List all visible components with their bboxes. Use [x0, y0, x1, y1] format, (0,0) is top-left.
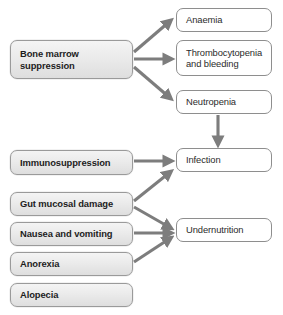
- edge-bone-marrow-to-neutropenia: [134, 67, 169, 97]
- node-anorexia[interactable]: Anorexia: [10, 252, 133, 276]
- node-label: Undernutrition: [177, 224, 271, 235]
- node-label: Bone marrow suppression: [11, 48, 132, 71]
- edge-gut-mucosal-damage-to-undernutrition: [134, 207, 169, 227]
- node-label: Gut mucosal damage: [11, 198, 132, 209]
- node-gut-mucosal-damage[interactable]: Gut mucosal damage: [10, 192, 133, 216]
- node-anaemia[interactable]: Anaemia: [176, 8, 272, 32]
- node-label: Infection: [177, 154, 271, 165]
- edge-bone-marrow-to-anaemia: [134, 22, 169, 52]
- node-label: Alopecia: [11, 289, 132, 300]
- node-neutropenia[interactable]: Neutropenia: [176, 90, 272, 114]
- flowchart-canvas: Bone marrow suppression Anaemia Thromboc…: [0, 0, 283, 315]
- edge-anorexia-to-undernutrition: [134, 239, 169, 262]
- node-immunosuppression[interactable]: Immunosuppression: [10, 150, 133, 175]
- node-alopecia[interactable]: Alopecia: [10, 283, 133, 307]
- node-label: Neutropenia: [177, 96, 271, 107]
- node-label: Nausea and vomiting: [11, 228, 132, 239]
- node-label: Immunosuppression: [11, 157, 132, 168]
- node-label: Anorexia: [11, 258, 132, 269]
- node-label: Anaemia: [177, 14, 271, 25]
- node-undernutrition[interactable]: Undernutrition: [176, 218, 272, 242]
- node-label: Thrombocytopenia and bleeding: [177, 47, 271, 70]
- edge-gut-mucosal-damage-to-infection: [134, 173, 169, 201]
- node-nausea-and-vomiting[interactable]: Nausea and vomiting: [10, 222, 133, 246]
- node-bone-marrow-suppression[interactable]: Bone marrow suppression: [10, 40, 133, 79]
- node-infection[interactable]: Infection: [176, 148, 272, 172]
- node-thrombocytopenia-and-bleeding[interactable]: Thrombocytopenia and bleeding: [176, 40, 272, 76]
